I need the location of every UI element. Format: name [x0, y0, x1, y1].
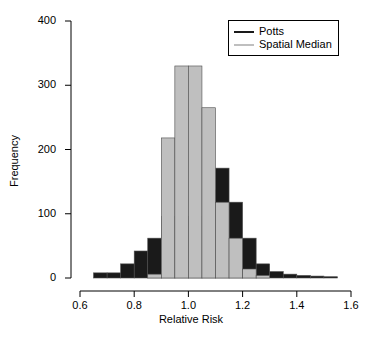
x-axis-title: Relative Risk	[0, 313, 382, 325]
histogram-bar	[202, 108, 216, 278]
histogram-bar	[121, 264, 135, 278]
histogram-bar	[297, 275, 311, 278]
x-axis-tick-label: 0.6	[60, 299, 100, 311]
legend-item: Spatial Median	[234, 38, 332, 51]
histogram-bar	[148, 274, 162, 278]
histogram-bar	[94, 273, 108, 278]
histogram-bar	[188, 66, 202, 278]
histogram-bar	[161, 138, 175, 278]
histogram-bar	[229, 238, 243, 278]
histogram-bars	[94, 66, 338, 278]
legend-item-label: Spatial Median	[259, 38, 332, 51]
y-axis-ticks	[65, 21, 71, 278]
y-axis-tick-label: 100	[16, 207, 56, 219]
chart-legend: PottsSpatial Median	[228, 20, 339, 56]
histogram-bar	[256, 275, 270, 278]
legend-line-icon	[234, 44, 254, 46]
y-axis-tick-label: 0	[16, 271, 56, 283]
legend-item-label: Potts	[259, 25, 284, 38]
histogram-bar	[243, 269, 257, 278]
histogram-bar	[134, 251, 148, 278]
histogram-bar	[324, 277, 338, 278]
histogram-bar	[216, 202, 230, 278]
x-axis-tick-label: 1.2	[223, 299, 263, 311]
x-axis-ticks	[80, 291, 351, 297]
x-axis-tick-label: 1.4	[277, 299, 317, 311]
histogram-bar	[148, 238, 162, 278]
y-axis-tick-label: 200	[16, 143, 56, 155]
x-axis-tick-label: 1.0	[168, 299, 208, 311]
x-axis-tick-label: 0.8	[114, 299, 154, 311]
y-axis-tick-label: 300	[16, 78, 56, 90]
histogram-chart: 0.60.81.01.21.41.6 0100200300400 Relativ…	[0, 0, 382, 342]
y-axis-tick-label: 400	[16, 14, 56, 26]
histogram-bar	[283, 274, 297, 278]
histogram-bar	[107, 273, 121, 278]
y-axis-title: Frequency	[8, 111, 20, 211]
histogram-bar	[175, 66, 189, 278]
histogram-bar	[270, 272, 284, 278]
legend-item: Potts	[234, 25, 332, 38]
legend-line-icon	[234, 31, 254, 33]
histogram-bar	[310, 276, 324, 278]
x-axis-tick-label: 1.6	[331, 299, 371, 311]
